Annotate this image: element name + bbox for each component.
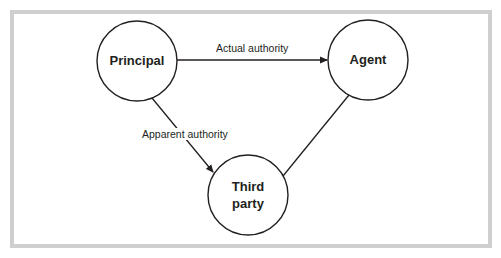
edge-label-apparent-authority: Apparent authority	[140, 128, 230, 140]
node-third-party-label-line2: party	[208, 195, 288, 212]
edge-label-actual-authority: Actual authority	[214, 42, 290, 54]
node-third-party-label: Third party	[208, 178, 288, 212]
node-third-party-label-line1: Third	[208, 178, 288, 195]
node-principal-label: Principal	[97, 52, 177, 69]
edge-agent-third-party	[283, 95, 349, 176]
diagram-canvas	[0, 0, 501, 258]
node-agent-label: Agent	[328, 51, 408, 68]
